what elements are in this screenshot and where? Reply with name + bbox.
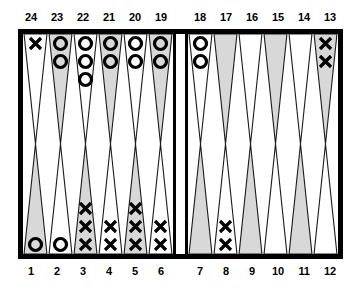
label-bar-gap-bottom	[174, 262, 187, 280]
checker-stack-21[interactable]	[98, 35, 123, 71]
checker-o-22-2[interactable]	[77, 53, 94, 70]
checker-o-1-1[interactable]	[27, 236, 44, 253]
checker-stack-22[interactable]	[73, 35, 98, 89]
point-triangle-9	[238, 144, 263, 254]
point-18[interactable]	[188, 34, 213, 144]
quadrant-bottom-right	[188, 144, 338, 254]
checker-x-4-2[interactable]	[102, 218, 119, 235]
checker-o-22-1[interactable]	[77, 35, 94, 52]
checker-stack-13[interactable]	[313, 35, 338, 71]
checker-o-20-2[interactable]	[127, 53, 144, 70]
point-label-13: 13	[317, 8, 343, 26]
point-triangle-11	[288, 144, 313, 254]
point-21[interactable]	[98, 34, 123, 144]
point-label-9: 9	[239, 262, 265, 280]
point-label-10: 10	[265, 262, 291, 280]
checker-o-19-1[interactable]	[152, 35, 169, 52]
point-24[interactable]	[23, 34, 48, 144]
checker-o-20-1[interactable]	[127, 35, 144, 52]
point-16[interactable]	[238, 34, 263, 144]
backgammon-board: 242322212019 181716151413 123456 7891011…	[0, 0, 353, 290]
top-right-labels: 181716151413	[187, 8, 343, 26]
checker-o-22-3[interactable]	[77, 71, 94, 88]
quadrant-top-left	[23, 34, 173, 144]
point-7[interactable]	[188, 144, 213, 254]
checker-stack-8[interactable]	[213, 217, 238, 253]
checker-stack-19[interactable]	[148, 35, 173, 71]
point-5[interactable]	[123, 144, 148, 254]
point-22[interactable]	[73, 34, 98, 144]
point-9[interactable]	[238, 144, 263, 254]
point-19[interactable]	[148, 34, 173, 144]
checker-o-21-1[interactable]	[102, 35, 119, 52]
point-label-23: 23	[44, 8, 70, 26]
checker-x-5-2[interactable]	[127, 218, 144, 235]
point-3[interactable]	[73, 144, 98, 254]
board-playing-surface	[23, 34, 338, 254]
checker-o-18-1[interactable]	[192, 35, 209, 52]
point-13[interactable]	[313, 34, 338, 144]
checker-x-6-2[interactable]	[152, 218, 169, 235]
board-bar[interactable]	[173, 34, 188, 254]
checker-o-18-2[interactable]	[192, 53, 209, 70]
point-label-14: 14	[291, 8, 317, 26]
point-6[interactable]	[148, 144, 173, 254]
checker-stack-2[interactable]	[48, 235, 73, 253]
point-triangle-12	[313, 144, 338, 254]
checker-stack-20[interactable]	[123, 35, 148, 71]
bottom-right-labels: 789101112	[187, 262, 343, 280]
checker-o-23-1[interactable]	[52, 35, 69, 52]
checker-x-8-2[interactable]	[217, 218, 234, 235]
checker-stack-24[interactable]	[23, 35, 48, 53]
bottom-point-labels: 123456 789101112	[18, 262, 343, 280]
board-left-half	[23, 34, 173, 254]
point-14[interactable]	[288, 34, 313, 144]
checker-x-5-1[interactable]	[127, 236, 144, 253]
checker-o-21-2[interactable]	[102, 53, 119, 70]
point-1[interactable]	[23, 144, 48, 254]
checker-x-4-1[interactable]	[102, 236, 119, 253]
point-11[interactable]	[288, 144, 313, 254]
point-label-11: 11	[291, 262, 317, 280]
point-20[interactable]	[123, 34, 148, 144]
checker-x-5-3[interactable]	[127, 200, 144, 217]
checker-stack-6[interactable]	[148, 217, 173, 253]
point-12[interactable]	[313, 144, 338, 254]
checker-o-19-2[interactable]	[152, 53, 169, 70]
checker-stack-5[interactable]	[123, 199, 148, 253]
checker-stack-23[interactable]	[48, 35, 73, 71]
checker-x-13-2[interactable]	[317, 53, 334, 70]
point-label-17: 17	[213, 8, 239, 26]
checker-stack-1[interactable]	[23, 235, 48, 253]
checker-o-23-2[interactable]	[52, 53, 69, 70]
board-frame	[18, 29, 343, 259]
checker-o-2-1[interactable]	[52, 236, 69, 253]
checker-stack-4[interactable]	[98, 217, 123, 253]
quadrant-top-right	[188, 34, 338, 144]
point-23[interactable]	[48, 34, 73, 144]
point-triangle-14	[288, 34, 313, 144]
point-triangle-15	[263, 34, 288, 144]
checker-x-13-1[interactable]	[317, 35, 334, 52]
point-label-6: 6	[148, 262, 174, 280]
checker-x-6-1[interactable]	[152, 236, 169, 253]
point-10[interactable]	[263, 144, 288, 254]
checker-x-3-1[interactable]	[77, 236, 94, 253]
point-15[interactable]	[263, 34, 288, 144]
top-point-labels: 242322212019 181716151413	[18, 8, 343, 26]
point-label-20: 20	[122, 8, 148, 26]
point-4[interactable]	[98, 144, 123, 254]
label-bar-gap	[174, 8, 187, 26]
checker-x-8-1[interactable]	[217, 236, 234, 253]
point-17[interactable]	[213, 34, 238, 144]
checker-x-24-1[interactable]	[27, 35, 44, 52]
point-triangle-7	[188, 144, 213, 254]
checker-x-3-3[interactable]	[77, 200, 94, 217]
checker-stack-18[interactable]	[188, 35, 213, 71]
checker-stack-3[interactable]	[73, 199, 98, 253]
point-8[interactable]	[213, 144, 238, 254]
checker-x-3-2[interactable]	[77, 218, 94, 235]
point-2[interactable]	[48, 144, 73, 254]
board-right-half	[188, 34, 338, 254]
point-label-5: 5	[122, 262, 148, 280]
